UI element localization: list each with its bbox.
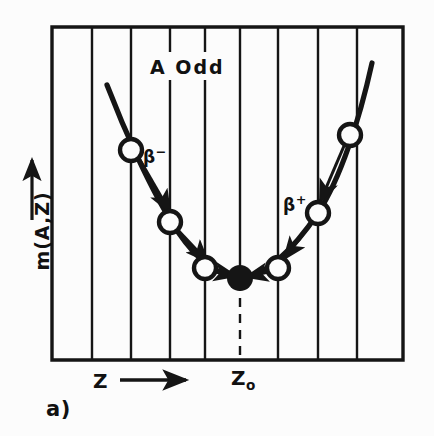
marker-open-left-2: [159, 211, 181, 233]
x-axis-label: Z: [93, 369, 108, 393]
stable-nuclide-marker: [227, 265, 253, 291]
beta-minus-arrows: [140, 160, 236, 276]
beta-minus-symbol: β: [143, 147, 156, 167]
figure-panel: A Odd β− β+ Z Zo a) m(A,Z): [0, 0, 434, 436]
beta-plus-label: β+: [283, 192, 307, 215]
z0-base: Z: [231, 366, 246, 390]
plot-frame: [52, 27, 403, 360]
beta-plus-superscript: +: [296, 192, 307, 207]
marker-open-right-2: [307, 202, 329, 224]
y-axis-label: m(A,Z): [31, 161, 53, 301]
z0-label: Zo: [231, 366, 256, 393]
panel-label: a): [46, 397, 71, 421]
marker-open-right-1: [267, 257, 289, 279]
beta-plus-symbol: β: [283, 195, 296, 215]
a-odd-annotation: A Odd: [150, 56, 225, 78]
beta-minus-label: β−: [143, 144, 167, 167]
marker-open-left-3: [194, 257, 216, 279]
marker-open-left-1: [120, 139, 142, 161]
z0-subscript: o: [246, 377, 256, 393]
marker-open-right-3: [339, 124, 361, 146]
beta-minus-superscript: −: [156, 144, 167, 159]
